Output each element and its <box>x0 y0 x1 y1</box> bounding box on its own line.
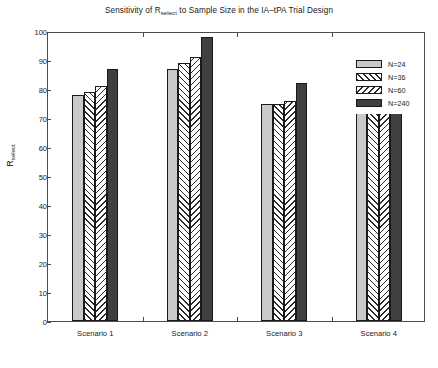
x-tick-mark-top-1 <box>143 33 144 37</box>
chart-title-subscript: select <box>161 10 177 16</box>
legend-label-4: N=240 <box>388 99 409 108</box>
chart-legend: N=24N=36N=60N=240 <box>352 54 424 114</box>
y-tick-0: 0 <box>0 318 47 327</box>
legend-swatch-icon-1 <box>356 60 382 68</box>
y-tick-60: 60 <box>0 144 47 153</box>
y-tick-30: 30 <box>0 231 47 240</box>
legend-item-N-240[interactable]: N=240 <box>356 97 421 109</box>
bar-1-N-240 <box>107 69 119 321</box>
bar-1-N-24 <box>72 95 84 321</box>
y-tick-70: 70 <box>0 115 47 124</box>
y-tick-10: 10 <box>0 289 47 298</box>
x-axis-category-3: Scenario 3 <box>266 329 302 338</box>
x-tick-mark-2 <box>237 317 238 321</box>
bar-2-N-24 <box>167 69 179 321</box>
x-axis-category-1: Scenario 1 <box>77 329 113 338</box>
bar-3-N-24 <box>261 104 273 322</box>
bar-3-N-240 <box>296 83 308 321</box>
legend-swatch-icon-2 <box>356 73 382 81</box>
x-tick-mark-3 <box>332 317 333 321</box>
bar-1-N-60 <box>95 86 107 321</box>
x-tick-mark-top-3 <box>332 33 333 37</box>
bar-1-N-36 <box>84 92 96 321</box>
y-axis-label: Rselect <box>5 116 16 196</box>
chart-title-prefix: Sensitivity of R <box>105 6 161 15</box>
legend-label-1: N=24 <box>388 60 405 69</box>
y-tick-90: 90 <box>0 57 47 66</box>
y-tick-100: 100 <box>0 28 47 37</box>
legend-swatch-icon-3 <box>356 86 382 94</box>
chart-title: Sensitivity of Rselect to Sample Size in… <box>0 6 438 16</box>
x-axis-category-4: Scenario 4 <box>361 329 397 338</box>
legend-item-N-36[interactable]: N=36 <box>356 71 421 83</box>
y-tick-40: 40 <box>0 202 47 211</box>
legend-item-N-24[interactable]: N=24 <box>356 58 421 70</box>
bar-2-N-36 <box>178 63 190 321</box>
bar-2-N-60 <box>190 57 202 321</box>
x-tick-mark-1 <box>143 317 144 321</box>
bar-3-N-60 <box>284 101 296 321</box>
bar-4-N-24 <box>356 95 368 321</box>
y-tick-80: 80 <box>0 86 47 95</box>
chart-title-suffix: to Sample Size in the IA–tPA Trial Desig… <box>177 6 333 15</box>
bar-2-N-240 <box>201 37 213 321</box>
y-tick-50: 50 <box>0 173 47 182</box>
x-axis-category-2: Scenario 2 <box>172 329 208 338</box>
y-axis-label-main: R <box>5 160 15 167</box>
bar-4-N-36 <box>367 83 379 321</box>
figure-container: Sensitivity of Rselect to Sample Size in… <box>0 0 438 368</box>
legend-item-N-60[interactable]: N=60 <box>356 84 421 96</box>
legend-label-2: N=36 <box>388 73 405 82</box>
legend-swatch-icon-4 <box>356 99 382 107</box>
y-tick-20: 20 <box>0 260 47 269</box>
bar-3-N-36 <box>273 104 285 322</box>
legend-label-3: N=60 <box>388 86 405 95</box>
x-tick-mark-top-2 <box>237 33 238 37</box>
